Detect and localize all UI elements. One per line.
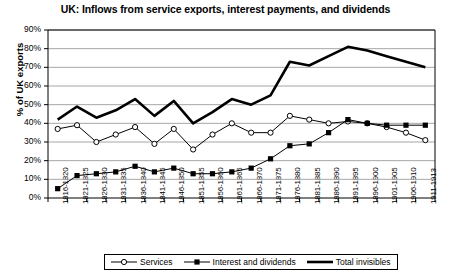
thick-line-marker — [307, 257, 333, 267]
chart-container: UK: Inflows from service exports, intere… — [0, 0, 451, 276]
legend-item-label: Services — [140, 257, 173, 267]
data-point-marker — [423, 123, 428, 128]
legend-item-label: Total invisibles — [336, 257, 391, 267]
data-point-marker — [191, 171, 196, 176]
legend-item: Interest and dividends — [184, 257, 296, 267]
data-point-marker — [74, 173, 79, 178]
data-point-marker — [268, 130, 273, 135]
data-point-marker — [403, 130, 408, 135]
data-point-marker — [307, 141, 312, 146]
data-point-marker — [152, 141, 157, 146]
data-point-marker — [132, 164, 137, 169]
data-point-marker — [191, 147, 196, 152]
data-point-marker — [94, 139, 99, 144]
data-point-marker — [132, 124, 137, 129]
data-point-marker — [403, 123, 408, 128]
filled-square-marker — [184, 257, 210, 267]
series-line-interest-and-dividends — [58, 120, 426, 189]
data-point-marker — [345, 117, 350, 122]
legend-item-label: Interest and dividends — [213, 257, 296, 267]
data-point-marker — [55, 126, 60, 131]
data-point-marker — [287, 143, 292, 148]
data-point-marker — [113, 169, 118, 174]
data-point-marker — [229, 121, 234, 126]
data-point-marker — [171, 126, 176, 131]
data-point-marker — [268, 156, 273, 161]
data-point-marker — [365, 121, 370, 126]
data-point-marker — [287, 113, 292, 118]
series-line-total-invisibles — [58, 47, 426, 124]
data-point-marker — [152, 169, 157, 174]
data-point-marker — [74, 123, 79, 128]
data-point-marker — [229, 169, 234, 174]
data-point-marker — [249, 166, 254, 171]
legend-item: Services — [111, 257, 173, 267]
data-point-marker — [55, 186, 60, 191]
data-series-layer — [55, 47, 428, 191]
data-point-marker — [113, 132, 118, 137]
series-line-services — [58, 116, 426, 150]
open-circle-marker — [111, 257, 137, 267]
data-point-marker — [384, 123, 389, 128]
data-point-marker — [326, 130, 331, 135]
data-point-marker — [249, 130, 254, 135]
data-point-marker — [210, 171, 215, 176]
data-point-marker — [326, 121, 331, 126]
data-point-marker — [171, 166, 176, 171]
data-point-marker — [94, 171, 99, 176]
data-point-marker — [210, 132, 215, 137]
legend-item: Total invisibles — [307, 257, 391, 267]
data-point-marker — [307, 117, 312, 122]
plot-area — [0, 0, 451, 276]
chart-legend: ServicesInterest and dividendsTotal invi… — [104, 254, 398, 270]
data-point-marker — [423, 138, 428, 143]
